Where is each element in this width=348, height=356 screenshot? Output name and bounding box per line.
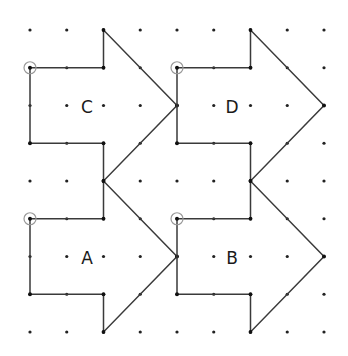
vertex-dot: [322, 255, 326, 259]
vertex-dot: [175, 217, 179, 221]
grid-dot: [322, 142, 325, 145]
grid-dot: [249, 104, 252, 107]
shape-label-a: A: [81, 248, 93, 268]
grid-dot: [139, 330, 142, 333]
diagram-canvas: C D A B: [0, 0, 348, 356]
vertex-dot: [175, 292, 179, 296]
grid-dot: [139, 179, 142, 182]
shape-label-b: B: [226, 248, 238, 268]
grid-dot: [322, 66, 325, 69]
grid-dot: [139, 104, 142, 107]
grid-dot: [102, 255, 105, 258]
vertex-dot: [249, 179, 253, 183]
vertex-dot: [322, 104, 326, 108]
vertex-dot: [102, 28, 106, 32]
grid-dot: [322, 293, 325, 296]
grid-dot: [212, 330, 215, 333]
grid-dot: [286, 330, 289, 333]
vertex-dot: [249, 217, 253, 221]
vertex-dot: [102, 217, 106, 221]
grid-dot: [212, 179, 215, 182]
grid-dot: [322, 330, 325, 333]
grid-dot: [65, 330, 68, 333]
shape-label-c: C: [81, 97, 93, 117]
grid-dot: [28, 330, 31, 333]
vertex-dot: [28, 292, 32, 296]
vertex-dot: [175, 66, 179, 70]
grid-dot: [28, 28, 31, 31]
vertex-dot: [249, 141, 253, 145]
grid-dot: [175, 330, 178, 333]
vertex-dot: [249, 28, 253, 32]
grid-dot: [212, 104, 215, 107]
grid-dot: [322, 28, 325, 31]
grid-dot: [286, 255, 289, 258]
vertex-dot: [249, 330, 253, 334]
vertex-dot: [28, 217, 32, 221]
vertex-dot: [249, 292, 253, 296]
vertex-dot: [28, 141, 32, 145]
grid-dot: [286, 104, 289, 107]
vertex-dot: [249, 66, 253, 70]
grid-dot: [212, 28, 215, 31]
grid-dot: [286, 179, 289, 182]
vertex-dot: [102, 330, 106, 334]
vertex-dot: [102, 66, 106, 70]
grid-dot: [28, 179, 31, 182]
vertex-dot: [102, 141, 106, 145]
vertex-dot: [28, 66, 32, 70]
grid-dot: [175, 179, 178, 182]
vertex-dot: [102, 292, 106, 296]
grid-dot: [322, 179, 325, 182]
grid-dot: [102, 104, 105, 107]
grid-dot: [249, 255, 252, 258]
grid-dot: [322, 217, 325, 220]
grid-dot: [65, 179, 68, 182]
vertex-dot: [175, 141, 179, 145]
grid-dot: [65, 28, 68, 31]
grid-dot: [65, 104, 68, 107]
dot-grid-diagram: C D A B: [0, 0, 348, 356]
shape-label-d: D: [226, 97, 239, 117]
grid-dot: [139, 255, 142, 258]
vertex-dot: [102, 179, 106, 183]
grid-dot: [65, 255, 68, 258]
grid-dot: [139, 28, 142, 31]
grid-dot: [212, 255, 215, 258]
grid-dot: [175, 28, 178, 31]
grid-dot: [286, 28, 289, 31]
